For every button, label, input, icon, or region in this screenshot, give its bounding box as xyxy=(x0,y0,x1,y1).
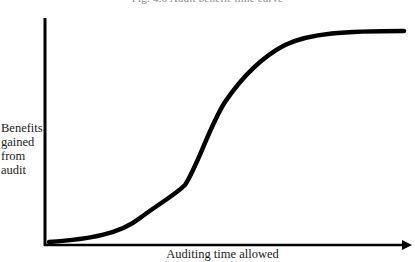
y-axis-label-line: gained xyxy=(1,135,43,149)
benefit-curve xyxy=(49,31,404,242)
y-axis-label-line: Benefits xyxy=(1,121,43,135)
y-axis-label-line: from xyxy=(1,149,43,163)
x-axis-label: Auditing time allowed xyxy=(0,247,415,262)
plot-area xyxy=(0,0,415,262)
y-axis-label: Benefits gained from audit xyxy=(1,121,43,177)
y-axis-label-line: audit xyxy=(1,163,43,177)
